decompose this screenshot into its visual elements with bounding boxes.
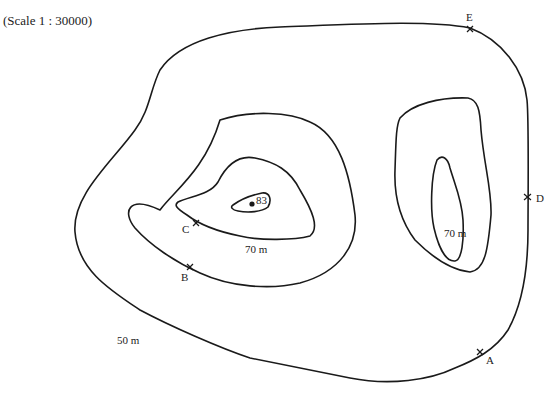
summit-height-label: 83	[256, 194, 268, 206]
contour-right-mid	[395, 98, 491, 272]
summit-point-icon	[249, 201, 254, 206]
contour-right-inner-70m	[432, 157, 464, 261]
contour-label-70m-right: 70 m	[444, 227, 467, 239]
contour-map: (Scale 1 : 30000) 83 70 m 70 m 50 m E D …	[0, 0, 557, 396]
point-c-label: C	[182, 223, 189, 235]
contour-label-70m-left: 70 m	[245, 243, 268, 255]
point-d-label: D	[536, 192, 544, 204]
contour-label-50m: 50 m	[117, 334, 140, 346]
scale-label: (Scale 1 : 30000)	[3, 13, 92, 28]
point-a-marker	[477, 349, 483, 355]
point-b-label: B	[181, 271, 188, 283]
point-e-label: E	[466, 11, 473, 23]
point-a-label: A	[486, 354, 494, 366]
